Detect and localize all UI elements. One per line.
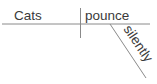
verb-word: pounce — [85, 8, 129, 23]
sentence-diagram: Cats pounce silently — [0, 0, 157, 84]
modifier-word: silently — [121, 22, 157, 65]
subject-word: Cats — [14, 8, 42, 23]
